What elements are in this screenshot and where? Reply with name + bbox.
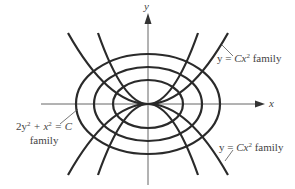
label-var: Cx: [234, 52, 246, 64]
x-axis-label: x: [269, 97, 274, 109]
x-axis-arrow-icon: [255, 101, 265, 108]
label-suffix: family: [250, 52, 281, 64]
label-part: + x: [31, 120, 49, 132]
y-axis-label: y: [144, 0, 149, 12]
axes: [41, 20, 257, 185]
label-prefix: y =: [219, 141, 236, 153]
ellipse-label-line2: family: [16, 134, 72, 146]
label-prefix: y =: [217, 52, 234, 64]
label-part: 2y: [16, 120, 27, 132]
ellipse-label: 2y2 + x2 = C family: [16, 120, 72, 146]
label-suffix: family: [252, 141, 283, 153]
y-axis-arrow-icon: [145, 13, 152, 24]
orthogonal-trajectories-diagram: [0, 0, 295, 189]
label-part: = C: [52, 120, 72, 132]
ellipse-label-line1: 2y2 + x2 = C: [16, 120, 72, 132]
parabola-label-upper: y = Cx2 family: [217, 52, 281, 64]
label-var: Cx: [236, 141, 248, 153]
parabola-label-lower: y = Cx2 family: [219, 141, 283, 153]
